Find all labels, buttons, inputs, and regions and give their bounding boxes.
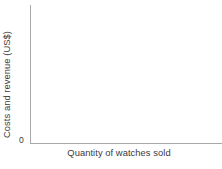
chart-container: Costs and revenue (US$) Quantity of watc… — [0, 0, 222, 169]
x-axis-label: Quantity of watches sold — [30, 147, 208, 158]
x-axis-line — [30, 143, 222, 144]
origin-tick-label: 0 — [19, 136, 24, 145]
y-axis-line — [30, 5, 31, 144]
